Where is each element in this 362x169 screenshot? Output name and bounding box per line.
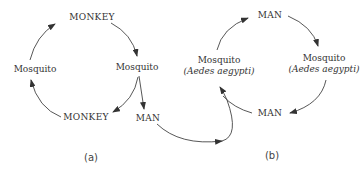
caption-b: (b) — [265, 150, 279, 161]
arrow-bottom-man-to-left-mosquito — [223, 96, 252, 113]
node-mosquito-left-name: Mosquito — [198, 55, 241, 66]
arrow-mosquito-to-man — [139, 76, 144, 109]
arrow-right-mosquito-to-bottom-monkey — [113, 77, 138, 112]
node-mosquito-right-name: Mosquito — [303, 53, 346, 64]
arrow-right-mosquito-to-bottom-man — [290, 80, 326, 113]
node-mosquito-right: Mosquito — [116, 62, 159, 73]
node-man-top: MAN — [258, 10, 283, 21]
node-monkey-top: MONKEY — [69, 12, 115, 23]
arrow-top-monkey-to-right-mosquito — [111, 23, 137, 56]
arrow-left-to-top-monkey — [30, 24, 55, 60]
node-mosquito-left: Mosquito — [14, 64, 57, 75]
node-monkey-bottom: MONKEY — [63, 112, 109, 123]
cycle-arrows — [0, 0, 362, 169]
arrow-bottom-monkey-to-left-mosquito — [31, 80, 61, 117]
node-man-branch: MAN — [136, 113, 161, 124]
caption-a: (a) — [84, 152, 98, 163]
arrow-man-to-panel-b — [157, 124, 222, 142]
connector-into-mosquito-b — [220, 87, 232, 141]
node-man-bottom: MAN — [258, 108, 283, 119]
arrow-left-mosquito-to-top-man — [217, 18, 248, 50]
arrow-top-man-to-right-mosquito — [288, 16, 318, 46]
node-mosquito-right-species: (Aedes aegypti) — [288, 64, 359, 75]
node-mosquito-left-species: (Aedes aegypti) — [183, 66, 254, 77]
